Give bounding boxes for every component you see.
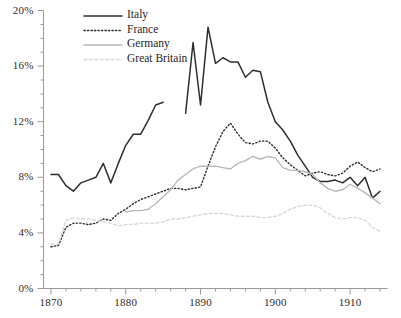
chart-plot-area [0,0,401,318]
legend-label-italy: Italy [127,8,148,20]
series-line-italy [51,102,163,191]
y-axis-tick-label: 8% [0,170,34,182]
x-axis-tick-label: 1900 [250,296,300,308]
legend-label-france: France [127,23,158,35]
series-line-italy [186,27,380,198]
y-axis-tick-label: 12% [0,115,34,127]
y-axis-tick-label: 16% [0,59,34,71]
series-line-great-britain [51,205,380,244]
x-axis-tick-label: 1910 [325,296,375,308]
series-line-france [51,123,380,247]
legend-label-great-britain: Great Britain [127,52,187,64]
x-axis-tick-label: 1880 [101,296,151,308]
x-axis-tick-label: 1890 [176,296,226,308]
line-chart: 0%4%8%12%16%20%18701880189019001910Italy… [0,0,401,318]
y-axis-tick-label: 20% [0,4,34,16]
y-axis-tick-label: 4% [0,226,34,238]
y-axis-tick-label: 0% [0,282,34,294]
x-axis-tick-label: 1870 [26,296,76,308]
series-line-germany [126,156,380,212]
legend-label-germany: Germany [127,37,170,49]
